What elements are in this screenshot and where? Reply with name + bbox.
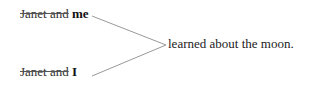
subject-option-top: Janet and me <box>20 6 89 22</box>
connector-top <box>92 16 166 45</box>
pronoun-i: I <box>72 64 77 79</box>
struck-text: Janet and <box>20 64 69 79</box>
connector-bottom <box>92 45 166 76</box>
pronoun-me: me <box>72 6 89 21</box>
subject-option-bottom: Janet and I <box>20 64 77 80</box>
predicate-text: learned about the moon. <box>168 36 294 52</box>
struck-text: Janet and <box>20 6 69 21</box>
